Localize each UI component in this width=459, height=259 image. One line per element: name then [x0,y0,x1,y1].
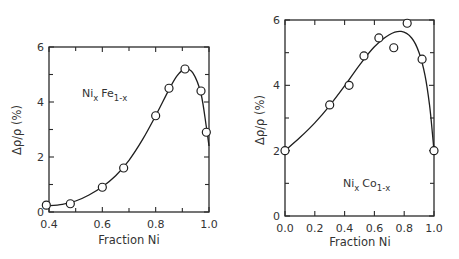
x-tick-label: 0.0 [276,222,294,235]
plot-frame [285,20,434,216]
x-tick-label: 1.0 [425,222,443,235]
figure: 0246 0.40.60.81.0 NixFe1-x Fraction Ni Δ… [0,0,459,259]
data-point-circle [403,19,411,27]
data-point-circle [418,55,426,63]
data-point-circle [66,200,74,208]
y-tick-labels: 0246 [37,41,44,219]
x-tick-label: 0.4 [336,222,354,235]
x-tick-label: 0.4 [40,218,58,231]
y-tick-label: 2 [273,145,280,158]
x-tick-label: 0.6 [94,218,112,231]
x-tick-labels: 0.40.60.81.0 [40,218,218,231]
data-points [281,19,438,154]
x-tick-label: 0.2 [306,222,324,235]
y-tick-labels: 0246 [273,14,280,223]
data-point-circle [120,164,128,172]
fit-curve [46,69,209,206]
x-tick-label: 0.8 [395,222,413,235]
tick-marks [285,20,434,216]
x-tick-label: 1.0 [200,218,218,231]
y-tick-label: 4 [273,79,280,92]
data-point-circle [326,101,334,109]
data-point-circle [202,128,210,136]
x-tick-label: 0.8 [147,218,165,231]
chart-nife: 0246 0.40.60.81.0 NixFe1-x Fraction Ni Δ… [10,41,218,247]
data-points [42,65,210,209]
x-axis-label: Fraction Ni [329,235,390,249]
fit-curve [285,31,434,150]
y-tick-label: 6 [37,41,44,54]
y-axis-label: Δρ/ρ (%) [10,105,24,155]
y-tick-label: 4 [37,96,44,109]
data-point-circle [345,81,353,89]
alloy-annotation: NixFe1-x [82,87,127,103]
x-axis-label: Fraction Ni [98,233,159,247]
data-point-circle [165,84,173,92]
data-point-circle [390,44,398,52]
y-axis-label: Δρ/ρ (%) [253,95,267,145]
data-point-circle [375,34,383,42]
data-point-circle [152,112,160,120]
y-tick-label: 2 [37,151,44,164]
chart-nico: 0246 0.00.20.40.60.81.0 NixCo1-x Fractio… [253,14,443,249]
data-point-circle [430,147,438,155]
x-tick-labels: 0.00.20.40.60.81.0 [276,222,443,235]
data-point-circle [42,201,50,209]
data-point-circle [360,52,368,60]
alloy-annotation: NixCo1-x [343,177,390,193]
y-tick-label: 6 [273,14,280,27]
data-point-circle [197,87,205,95]
data-point-circle [181,65,189,73]
data-point-circle [98,183,106,191]
data-point-circle [281,147,289,155]
x-tick-label: 0.6 [366,222,384,235]
